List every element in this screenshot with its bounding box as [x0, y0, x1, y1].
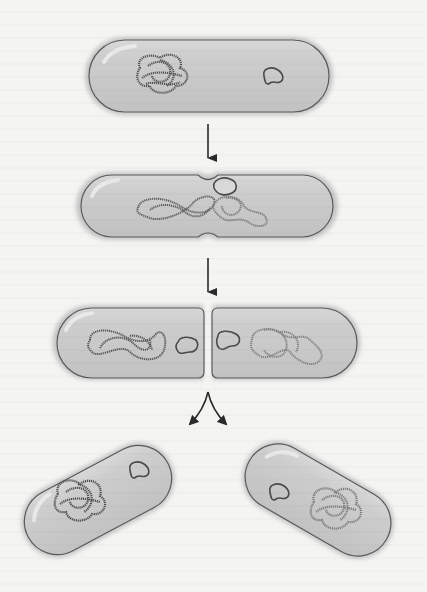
- cell-membrane: [81, 175, 333, 237]
- right-half-cell: [212, 305, 361, 380]
- stage-4-daughter-cell-right: [229, 428, 407, 572]
- cell-membrane: [233, 432, 403, 568]
- cell-membrane: [89, 40, 329, 112]
- plasmid: [214, 178, 237, 195]
- stage-3-septum-cells: [53, 305, 361, 380]
- cell-membrane: [212, 308, 357, 378]
- cell-membrane: [13, 434, 183, 566]
- stage-1-parent-cell: [85, 37, 333, 115]
- left-half-cell: [53, 305, 205, 380]
- arrow-split: [190, 392, 226, 424]
- binary-fission-diagram: [0, 0, 427, 592]
- stage-2-dividing-cell: [76, 172, 338, 240]
- stage-4-daughter-cell-left: [8, 428, 187, 570]
